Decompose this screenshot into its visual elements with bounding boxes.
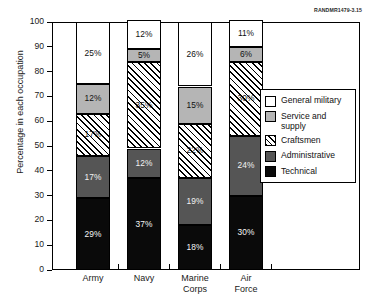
- bar-segment-craftsmen[interactable]: 17%: [76, 114, 110, 156]
- bar-segment-label: 15%: [187, 101, 204, 110]
- x-axis-ticks: [52, 264, 360, 272]
- legend-swatch-craftsmen: [265, 135, 276, 146]
- bar-segment-technical[interactable]: 30%: [229, 196, 263, 270]
- legend-label: Technical: [281, 166, 317, 176]
- legend-label: Service and supply: [281, 111, 350, 131]
- x-tick-mark: [271, 264, 272, 270]
- bar-segment-general[interactable]: 26%: [178, 22, 212, 86]
- bar-segment-service[interactable]: 15%: [178, 87, 212, 124]
- legend-label: General military: [281, 95, 341, 105]
- x-axis-labels: ArmyNavyMarineCorpsAirForce: [52, 273, 360, 303]
- bar-segment-label: 6%: [240, 50, 252, 59]
- bar-segment-admin[interactable]: 24%: [229, 136, 263, 196]
- bar-segment-technical[interactable]: 29%: [76, 198, 110, 270]
- y-tick-label: 50: [34, 140, 44, 151]
- bar-segment-admin[interactable]: 17%: [76, 156, 110, 198]
- bar-segment-label: 37%: [136, 220, 153, 229]
- y-tick-label: 20: [34, 214, 44, 225]
- x-tick-mark: [118, 264, 119, 270]
- bar-segment-label: 17%: [85, 173, 102, 182]
- bar-segment-service[interactable]: 6%: [229, 47, 263, 62]
- bar-segment-label: 30%: [238, 94, 255, 103]
- bar-segment-technical[interactable]: 37%: [127, 178, 161, 270]
- bar-segment-craftsmen[interactable]: 22%: [178, 124, 212, 179]
- stacked-bar-chart-figure: RANDMR1479-3.15 Percentage in each occup…: [0, 0, 375, 308]
- y-tick-label: 90: [34, 41, 44, 52]
- legend-item-general[interactable]: General military: [265, 95, 350, 107]
- bar-segment-label: 35%: [136, 101, 153, 110]
- bar-segment-admin[interactable]: 12%: [127, 149, 161, 179]
- bar-segment-label: 19%: [187, 197, 204, 206]
- legend-swatch-technical: [265, 166, 276, 177]
- legend-swatch-service: [265, 111, 276, 122]
- bar-segment-label: 26%: [187, 50, 204, 59]
- x-tick-mark: [220, 264, 221, 270]
- y-tick-label: 40: [34, 165, 44, 176]
- y-axis-ticks: 1009080706050403020100: [0, 22, 52, 270]
- bar-stack: 29%17%17%12%25%: [76, 22, 110, 270]
- bar-segment-service[interactable]: 12%: [76, 84, 110, 114]
- bar-segment-label: 18%: [187, 243, 204, 252]
- source-attribution: RANDMR1479-3.15: [314, 7, 362, 13]
- x-axis-label-air-force: AirForce: [216, 273, 276, 294]
- bar-segment-label: 22%: [187, 146, 204, 155]
- chart-legend: General militaryService and supplyCrafts…: [260, 89, 356, 183]
- legend-item-technical[interactable]: Technical: [265, 166, 350, 178]
- y-tick-label: 70: [34, 90, 44, 101]
- bar-segment-label: 5%: [138, 51, 150, 60]
- legend-swatch-admin: [265, 151, 276, 162]
- legend-item-admin[interactable]: Administrative: [265, 150, 350, 162]
- bar-segment-label: 25%: [85, 49, 102, 58]
- y-tick-label: 30: [34, 190, 44, 201]
- bar-stack: 18%19%22%15%26%: [178, 22, 212, 270]
- legend-label: Administrative: [281, 150, 335, 160]
- legend-item-craftsmen[interactable]: Craftsmen: [265, 135, 350, 147]
- legend-swatch-general: [265, 96, 276, 107]
- bar-stack: 37%12%35%5%12%: [127, 22, 161, 270]
- x-tick-mark: [169, 264, 170, 270]
- bar-segment-general[interactable]: 11%: [229, 20, 263, 47]
- bar-segment-label: 29%: [85, 230, 102, 239]
- bar-segment-service[interactable]: 5%: [127, 49, 161, 61]
- x-axis-label-line: Force: [216, 284, 276, 295]
- bar-segment-admin[interactable]: 19%: [178, 178, 212, 225]
- x-axis-label-line: Air: [216, 273, 276, 284]
- y-tick-label: 10: [34, 239, 44, 250]
- bar-segment-craftsmen[interactable]: 30%: [229, 62, 263, 136]
- bar-segment-label: 17%: [85, 130, 102, 139]
- legend-label: Craftsmen: [281, 135, 321, 145]
- bar-stack: 30%24%30%6%11%: [229, 22, 263, 270]
- bar-segment-label: 24%: [238, 161, 255, 170]
- legend-item-service[interactable]: Service and supply: [265, 111, 350, 131]
- bar-segment-label: 12%: [85, 94, 102, 103]
- bar-segment-label: 12%: [136, 159, 153, 168]
- bar-segment-general[interactable]: 25%: [76, 22, 110, 84]
- y-tick-label: 80: [34, 66, 44, 77]
- bar-segment-label: 30%: [238, 228, 255, 237]
- y-tick-label: 0: [39, 264, 44, 275]
- bar-segment-craftsmen[interactable]: 35%: [127, 62, 161, 149]
- bar-segment-general[interactable]: 12%: [127, 20, 161, 50]
- bar-segment-label: 11%: [238, 29, 254, 38]
- bar-segment-label: 12%: [136, 30, 153, 39]
- y-tick-label: 60: [34, 115, 44, 126]
- y-tick-label: 100: [30, 16, 44, 27]
